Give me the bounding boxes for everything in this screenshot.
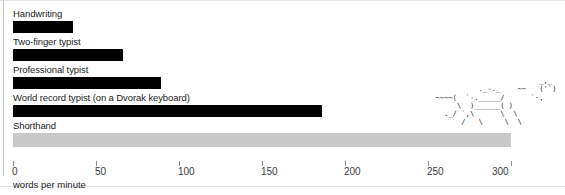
bar-label: Two-finger typist [13,36,80,47]
bar-label: Shorthand [13,120,56,131]
axis-tick-label: 250 [427,166,444,177]
axis-tick-label: 150 [261,166,278,177]
bar [13,77,161,89]
bar-label: World record typist (on a Dvorak keyboar… [13,92,190,103]
x-axis-title: words per minute [13,179,86,190]
chart-page: HandwritingTwo-finger typistProfessional… [0,0,565,195]
axis-tick-label: 300 [492,166,509,177]
axis-tick-label: 200 [344,166,361,177]
axis-tick-label: 0 [12,166,18,177]
bar [13,21,73,33]
axis-tick [511,161,512,166]
bar [13,49,123,61]
bar-label: Handwriting [13,8,62,19]
bar [13,133,511,147]
axis-tick-label: 50 [95,166,106,177]
bar-label: Professional typist [13,64,88,75]
axis-tick-label: 100 [178,166,195,177]
ascii-horse-art: _,_ ._-._ ~~ ('`) ~~~~( `-._____/ `·, \ … [418,77,556,126]
bar [13,105,322,117]
